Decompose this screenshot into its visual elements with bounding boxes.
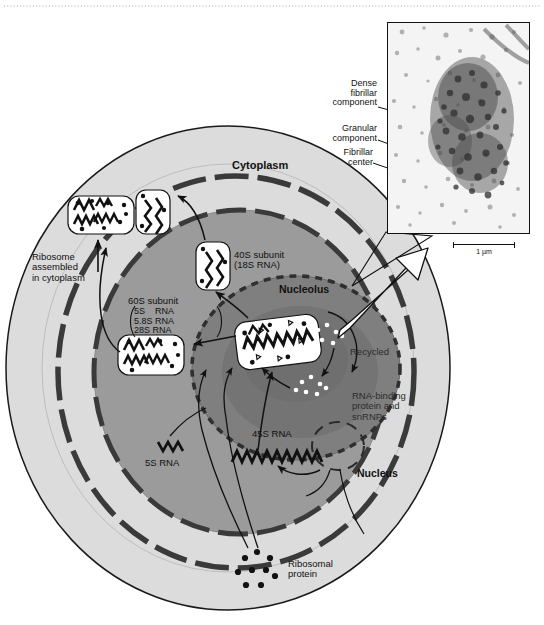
micrograph-scale-bar: 1 µm: [453, 242, 515, 260]
label-subunit-40s: 40S subunit (18S RNA): [234, 250, 284, 271]
label-cytoplasm: Cytoplasm: [232, 160, 288, 172]
electron-micrograph: [387, 22, 530, 234]
subunit-60s-bracket: [127, 305, 225, 338]
label-nucleus: Nucleus: [357, 468, 398, 479]
ribosome-assembled-particle: [68, 190, 170, 234]
label-nucleolus: Nucleolus: [279, 284, 329, 295]
preribosomal-particle: [233, 313, 322, 371]
subunit-60s-particle: [118, 335, 184, 375]
label-dense-fibrillar-component: Dense fibrillar component: [325, 79, 377, 108]
label-rna-binding-snrnps: RNA-binding protein and snRNPs: [352, 391, 406, 422]
scale-bar-label: 1 µm: [453, 248, 515, 255]
label-rna-45s: 45S RNA: [252, 429, 292, 439]
micrograph-texture: [388, 23, 529, 233]
label-fibrillar-center: Fibrillar center: [325, 148, 373, 167]
nucleolus-body: [192, 276, 400, 460]
label-granular-component: Granular component: [325, 124, 377, 143]
figure-canvas: 1 µm Cytoplasm Nucleolus Nucleus Ribosom…: [0, 0, 544, 625]
subunit-40s-particle: [196, 242, 230, 290]
label-rna-5s: 5S RNA: [145, 458, 179, 468]
label-ribosomal-protein: Ribosomal protein: [288, 559, 333, 580]
label-ribosome-assembled: Ribosome assembled in cytoplasm: [32, 252, 85, 283]
label-recycled: Recycled: [350, 347, 389, 357]
